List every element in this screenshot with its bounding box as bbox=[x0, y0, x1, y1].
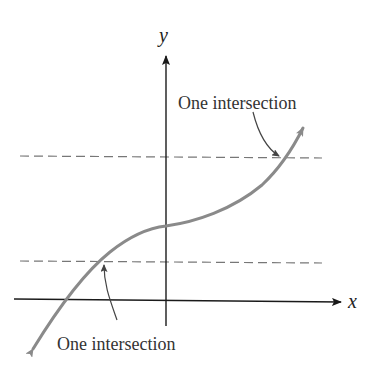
lower-annotation-arrow bbox=[104, 265, 117, 320]
upper-annotation-label: One intersection bbox=[178, 93, 296, 113]
x-axis-label: x bbox=[347, 290, 357, 312]
cubic-curve bbox=[33, 128, 303, 349]
upper-annotation-arrow bbox=[253, 112, 279, 156]
diagram-canvas: y x One intersection One intersection bbox=[0, 0, 374, 383]
diagram-svg: y x One intersection One intersection bbox=[0, 0, 374, 383]
lower-annotation-label: One intersection bbox=[57, 334, 175, 354]
y-axis-label: y bbox=[157, 24, 168, 47]
upper-horizontal-line bbox=[20, 156, 322, 158]
lower-horizontal-line bbox=[20, 261, 322, 263]
